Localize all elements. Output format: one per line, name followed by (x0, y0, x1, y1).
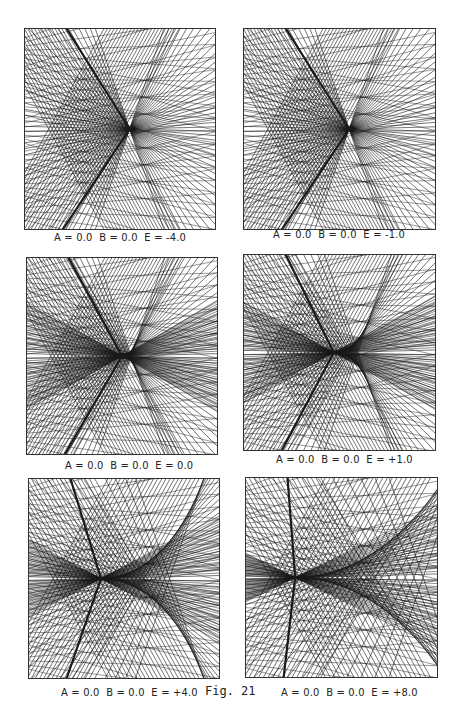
line-envelope-plot (24, 28, 216, 230)
line-envelope-plot (26, 257, 218, 455)
figure-label: Fig. 21 (205, 684, 256, 698)
panel-caption: A = 0.0 B = 0.0 E = +4.0 (61, 686, 198, 699)
panel-caption: A = 0.0 B = 0.0 E = 0.0 (65, 459, 193, 472)
panel-caption: A = 0.0 B = 0.0 E = -4.0 (54, 231, 186, 244)
plot-panel-e-plus-8 (245, 477, 438, 678)
plot-panel-e-zero (26, 257, 218, 455)
line-envelope-plot (28, 478, 220, 679)
plot-panel-e-minus-1 (243, 28, 436, 230)
panel-caption: A = 0.0 B = 0.0 E = -1.0 (273, 228, 405, 241)
plot-panel-e-plus-1 (243, 254, 436, 451)
line-envelope-plot (245, 477, 438, 678)
plot-panel-e-plus-4 (28, 478, 220, 679)
panel-caption: A = 0.0 B = 0.0 E = +8.0 (281, 686, 418, 699)
line-envelope-plot (243, 28, 436, 230)
line-envelope-plot (243, 254, 436, 451)
page-number (222, 0, 236, 6)
panel-caption: A = 0.0 B = 0.0 E = +1.0 (276, 453, 413, 466)
plot-panel-e-minus-4 (24, 28, 216, 230)
